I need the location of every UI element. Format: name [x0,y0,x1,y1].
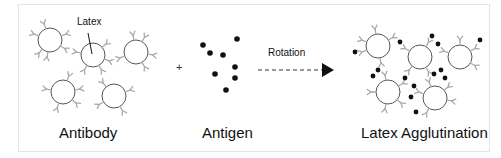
antibody-y-icon [457,36,462,45]
bound-antigen-dot [371,74,376,79]
antibody-y-icon [72,100,80,108]
antibody-y-icon [372,25,377,34]
bound-antigen-dot [439,68,444,73]
antibody-y-icon [102,40,110,48]
bound-antigen-dot [409,95,414,100]
antibody-y-icon [426,78,431,87]
latex-particle [408,45,432,69]
agglutination-panel [353,25,483,117]
antibody-y-icon [35,49,43,57]
antibody-panel [30,20,157,116]
antibody-y-icon [382,104,387,113]
antibody-y-icon [60,46,69,53]
antibody-y-icon [44,52,49,61]
latex-particle [366,34,390,58]
antibody-y-icon [99,78,107,86]
antibody-y-icon [426,67,433,76]
antibody-y-icon [405,66,413,74]
antibody-y-icon [470,63,479,70]
latex-particle [423,86,447,110]
antigen-caption: Antigen [202,124,253,141]
latex-particle [448,45,472,69]
antibody-y-icon [80,65,87,74]
latex-label: Latex [77,16,101,27]
antibody-y-icon [444,83,452,91]
antibody-y-icon [42,86,51,91]
antibody-y-icon [440,48,449,53]
antibody-y-icon [401,44,410,51]
antibody-y-icon [470,44,479,51]
antigen-dot [232,75,238,81]
antibody-y-icon [382,71,387,80]
rotation-label: Rotation [268,47,305,58]
antibody-y-icon [142,33,149,42]
bound-antigen-dot [398,40,403,45]
antigen-panel [200,36,240,93]
latex-particle [102,84,126,108]
bound-antigen-dot [436,42,441,47]
antibody-y-icon [75,86,84,91]
antibody-y-icon [398,79,407,86]
antibody-y-icon [41,20,46,29]
rotation-arrow [258,63,334,77]
antibody-y-icon [61,31,70,36]
bound-antigen-dot [432,72,437,77]
bound-antigen-dot [443,76,448,81]
antibody-y-icon [120,106,127,115]
antibody-y-icon [125,87,134,92]
bound-antigen-dot [353,50,358,55]
bound-antigen-dot [478,38,483,43]
agglutination-caption: Latex Agglutination [361,124,488,141]
bound-antigen-dot [430,34,435,39]
antigen-dot [220,52,226,58]
antibody-y-icon [99,65,106,74]
plus-sign: + [176,61,182,73]
antigen-dot [200,42,206,48]
antibody-caption: Antibody [59,124,117,141]
antibody-y-icon [447,99,456,104]
bound-antigen-dot [412,84,417,89]
antigen-dot [207,50,213,56]
antibody-y-icon [142,62,149,71]
antibody-y-icon [358,50,367,55]
antigen-dot [212,71,218,77]
antibody-y-icon [54,103,59,112]
antibody-y-icon [415,89,424,94]
antigen-dot [223,87,229,93]
latex-particle [124,40,148,64]
antibody-y-icon [358,37,367,42]
antibody-y-icon [116,56,125,61]
antibody-y-icon [104,59,113,64]
bound-antigen-dot [376,68,381,73]
bound-antigen-dot [403,76,408,81]
antibody-y-icon [422,108,429,117]
antibody-y-icon [67,72,72,81]
antibody-y-icon [397,100,405,108]
antibody-y-icon [30,31,39,36]
antibody-y-icon [148,53,157,58]
latex-particle [38,28,62,52]
antibody-y-icon [379,58,384,67]
latex-particle [81,43,105,67]
latex-particle [376,80,400,104]
antigen-dot [232,64,238,70]
antibody-y-icon [72,49,81,54]
arrowhead-icon [322,63,334,77]
antibody-y-icon [367,89,376,94]
bound-antigen-dot [414,110,419,115]
latex-particle [51,80,75,104]
antibody-y-icon [388,33,397,40]
antibody-y-icon [95,102,104,109]
antibody-y-icon [130,31,135,40]
antibody-y-icon [426,38,433,47]
antigen-dot [234,36,240,42]
